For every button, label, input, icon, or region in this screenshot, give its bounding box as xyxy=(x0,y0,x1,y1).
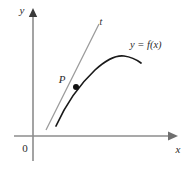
y-axis-arrow-icon xyxy=(29,8,37,17)
function-curve xyxy=(56,56,141,126)
point-p-marker xyxy=(73,84,79,90)
x-axis-label: x xyxy=(175,143,181,155)
tangent-line-label: t xyxy=(100,16,103,27)
function-curve-group xyxy=(56,56,141,126)
tangent-line xyxy=(46,24,99,130)
figure-canvas: y x 0 t P y = f(x) xyxy=(0,0,195,171)
tangency-point-group xyxy=(73,84,79,90)
x-axis-arrow-icon xyxy=(168,132,178,141)
point-p-label: P xyxy=(58,73,66,85)
function-curve-label: y = f(x) xyxy=(129,39,162,51)
tangent-line-group xyxy=(46,24,99,130)
labels-group: y x 0 t P y = f(x) xyxy=(19,4,181,155)
y-axis-label: y xyxy=(19,4,25,16)
origin-label: 0 xyxy=(22,142,28,154)
tangent-line-figure: y x 0 t P y = f(x) xyxy=(0,0,195,171)
